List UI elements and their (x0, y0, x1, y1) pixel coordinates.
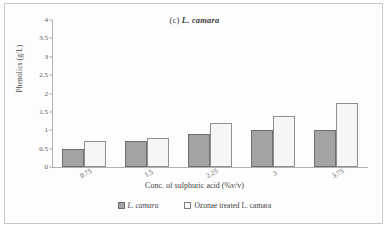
y-tick-label: 2 (45, 90, 49, 98)
y-tick-label: 4 (45, 16, 49, 24)
bar-series-1 (314, 130, 336, 167)
bar-series-2 (273, 116, 295, 167)
bar-group (62, 141, 106, 167)
legend-label-series-2: Ozonae treated L. camara (194, 201, 271, 210)
x-tick-label: 0.75 (78, 167, 93, 180)
x-tick-label: 2.25 (205, 167, 220, 180)
x-axis-label: Conc. of sulphuric acid (%v/v) (5, 181, 384, 190)
legend-item-series-2: Ozonae treated L. camara (184, 201, 271, 210)
y-tick-label: 1.5 (39, 108, 48, 116)
bar-series-1 (125, 141, 147, 167)
chart-legend: L. camara Ozonae treated L. camara (5, 201, 384, 210)
bar-group-container (52, 20, 368, 167)
x-tick-label: 3.75 (331, 167, 346, 180)
bar-series-1 (251, 130, 273, 167)
bar-group (251, 116, 295, 167)
x-tick-label: 1.5 (143, 168, 154, 179)
bar-series-2 (147, 138, 169, 167)
y-axis-label: Phenolics (g/L) (15, 14, 24, 124)
bar-series-2 (210, 123, 232, 167)
y-tick-label: 3.5 (39, 34, 48, 42)
y-tick-label: 2.5 (39, 71, 48, 79)
x-tick-label: 3 (272, 169, 279, 178)
bar-group (125, 138, 169, 167)
y-tick-label: 3 (45, 53, 49, 61)
legend-swatch-icon (118, 202, 125, 209)
y-tick-label: 0 (45, 163, 49, 171)
bar-series-1 (62, 149, 84, 167)
bar-group (188, 123, 232, 167)
bar-series-2 (336, 103, 358, 167)
y-tick-label: 1 (45, 126, 49, 134)
legend-item-series-1: L. camara (118, 201, 159, 210)
bar-series-1 (188, 134, 210, 167)
legend-swatch-icon (184, 202, 191, 209)
legend-label-series-1: L. camara (128, 201, 159, 210)
plot-area: 00.511.522.533.54 0.751.52.2533.75 (52, 20, 368, 168)
bar-group (314, 103, 358, 167)
x-axis-line (52, 167, 368, 168)
bar-series-2 (84, 141, 106, 167)
figure-frame: (c) L. camara Phenolics (g/L) 00.511.522… (4, 3, 383, 224)
y-tick-label: 0.5 (39, 145, 48, 153)
